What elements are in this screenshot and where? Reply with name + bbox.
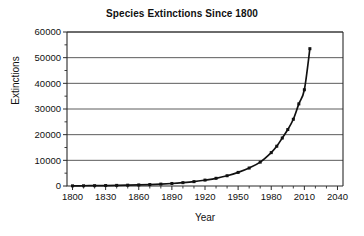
data-point-marker bbox=[204, 179, 207, 182]
x-tick-label: 1950 bbox=[228, 191, 249, 202]
data-point-marker bbox=[259, 161, 262, 164]
data-point-marker bbox=[159, 183, 162, 186]
data-point-marker bbox=[71, 184, 74, 187]
data-point-marker bbox=[308, 47, 311, 50]
y-tick-label: 10000 bbox=[35, 155, 61, 166]
data-point-marker bbox=[303, 88, 306, 91]
data-point-marker bbox=[170, 182, 173, 185]
y-tick-label: 20000 bbox=[35, 129, 61, 140]
data-point-marker bbox=[115, 184, 118, 187]
data-series-line bbox=[73, 49, 310, 186]
data-point-marker bbox=[93, 184, 96, 187]
y-tick-label: 40000 bbox=[35, 78, 61, 89]
data-series-markers bbox=[71, 47, 311, 187]
y-tick-label: 60000 bbox=[35, 26, 61, 37]
data-point-marker bbox=[248, 167, 251, 170]
x-axis-ticks bbox=[73, 186, 338, 190]
x-tick-label: 2010 bbox=[294, 191, 315, 202]
x-tick-label: 1800 bbox=[62, 191, 83, 202]
data-point-marker bbox=[297, 102, 300, 105]
x-tick-label: 1830 bbox=[95, 191, 116, 202]
data-point-marker bbox=[148, 183, 151, 186]
data-point-marker bbox=[226, 174, 229, 177]
y-axis-ticks bbox=[63, 32, 67, 186]
x-tick-label: 1980 bbox=[261, 191, 282, 202]
plot-area: 0100002000030000400005000060000 18001830… bbox=[0, 0, 364, 236]
data-point-marker bbox=[292, 118, 295, 121]
x-tick-label: 1920 bbox=[194, 191, 215, 202]
y-tick-label: 0 bbox=[56, 180, 61, 191]
data-point-marker bbox=[104, 184, 107, 187]
y-tick-label: 30000 bbox=[35, 103, 61, 114]
x-axis-tick-labels: 180018301860189019201950198020102040 bbox=[62, 191, 348, 202]
data-point-marker bbox=[181, 181, 184, 184]
data-point-marker bbox=[270, 151, 273, 154]
y-tick-label: 50000 bbox=[35, 52, 61, 63]
x-tick-label: 1890 bbox=[161, 191, 182, 202]
gridlines bbox=[67, 32, 343, 160]
data-point-marker bbox=[281, 137, 284, 140]
x-tick-label: 2040 bbox=[327, 191, 348, 202]
data-point-marker bbox=[275, 145, 278, 148]
data-point-marker bbox=[82, 184, 85, 187]
data-point-marker bbox=[137, 183, 140, 186]
chart-figure: Species Extinctions Since 1800 Extinctio… bbox=[0, 0, 364, 236]
data-point-marker bbox=[192, 180, 195, 183]
data-point-marker bbox=[126, 184, 129, 187]
data-point-marker bbox=[215, 177, 218, 180]
x-tick-label: 1860 bbox=[128, 191, 149, 202]
data-point-marker bbox=[237, 171, 240, 174]
y-axis-tick-labels: 0100002000030000400005000060000 bbox=[35, 26, 61, 191]
data-point-marker bbox=[286, 128, 289, 131]
